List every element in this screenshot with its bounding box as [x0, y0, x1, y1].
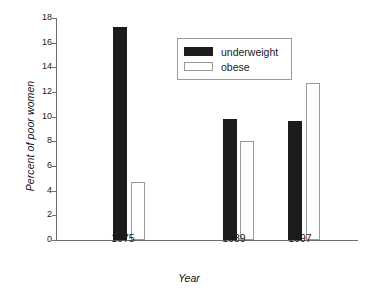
bar-obese-1997 [306, 83, 320, 240]
x-axis-title: Year [0, 272, 378, 284]
y-axis-line [56, 18, 57, 240]
y-tick-label: 0 [47, 234, 52, 245]
x-axis-line [56, 240, 358, 241]
y-tick-mark [52, 215, 56, 216]
legend-swatch-underweight [184, 47, 213, 56]
bar-underweight-1989 [223, 119, 237, 240]
y-tick-label: 16 [42, 37, 52, 48]
bar-chart: Percent of poor women 024681012141618 19… [0, 0, 378, 293]
legend-label-underweight: underweight [221, 46, 278, 58]
y-tick-label: 4 [47, 185, 52, 196]
y-tick-0: 0 [56, 240, 57, 241]
y-tick-label: 2 [47, 209, 52, 220]
y-tick-label: 8 [47, 135, 52, 146]
y-tick-12: 12 [56, 92, 57, 93]
y-tick-4: 4 [56, 191, 57, 192]
y-tick-mark [52, 18, 56, 19]
y-tick-mark [52, 92, 56, 93]
legend-label-obese: obese [221, 61, 250, 73]
y-tick-mark [52, 67, 56, 68]
y-tick-16: 16 [56, 43, 57, 44]
bar-obese-1989 [240, 141, 254, 240]
y-tick-mark [52, 43, 56, 44]
y-tick-mark [52, 141, 56, 142]
y-tick-mark [52, 117, 56, 118]
y-tick-8: 8 [56, 141, 57, 142]
y-tick-18: 18 [56, 18, 57, 19]
y-tick-14: 14 [56, 67, 57, 68]
y-axis-title: Percent of poor women [24, 46, 36, 226]
legend-swatch-obese [184, 62, 213, 71]
y-tick-label: 18 [42, 12, 52, 23]
x-axis-label-1975: 1975 [111, 232, 134, 244]
bar-underweight-1975 [113, 27, 127, 240]
y-tick-label: 12 [42, 86, 52, 97]
x-axis-label-1997: 1997 [288, 232, 311, 244]
x-axis-label-1989: 1989 [222, 232, 245, 244]
chart-legend: underweight obese [177, 38, 292, 80]
legend-item-obese: obese [178, 59, 291, 74]
y-tick-label: 10 [42, 111, 52, 122]
y-tick-label: 14 [42, 61, 52, 72]
y-tick-mark [52, 166, 56, 167]
y-tick-6: 6 [56, 166, 57, 167]
y-tick-10: 10 [56, 117, 57, 118]
y-tick-mark [52, 240, 56, 241]
bar-underweight-1997 [288, 121, 302, 240]
legend-item-underweight: underweight [178, 44, 291, 59]
y-tick-mark [52, 191, 56, 192]
y-tick-label: 6 [47, 160, 52, 171]
y-tick-2: 2 [56, 215, 57, 216]
